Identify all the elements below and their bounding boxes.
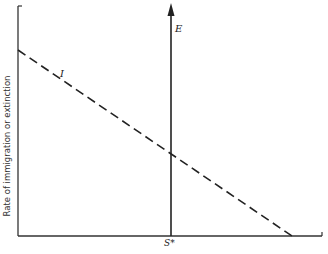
y-axis-label: Rate of immigration or extinction: [2, 46, 14, 246]
diagram-canvas: [0, 0, 328, 254]
equilibrium-label: S*: [164, 238, 175, 248]
immigration-label: I: [60, 68, 64, 79]
extinction-label: E: [175, 23, 182, 34]
arrow-up-icon: [168, 3, 175, 16]
